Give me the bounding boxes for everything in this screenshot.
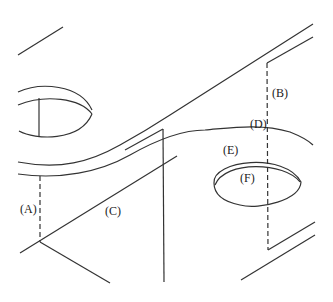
left-hole-outer-arc — [18, 86, 92, 110]
upper-s-curve — [18, 24, 313, 165]
lower-left-edge — [40, 242, 110, 283]
bottom-right-inner-edge — [268, 222, 315, 250]
left-hole-bottom-arc — [19, 114, 92, 137]
label-a: (A) — [20, 203, 37, 215]
top-left-edge — [18, 27, 63, 55]
technical-drawing: (A) (B) (C) (D) (E) (F) — [0, 0, 333, 302]
label-b: (B) — [272, 87, 288, 99]
bottom-right-outer-edge — [241, 235, 315, 280]
dashed-line-b — [267, 63, 268, 250]
top-right-inner-edge — [267, 37, 313, 63]
edge-c — [20, 156, 177, 253]
label-c: (C) — [105, 205, 121, 217]
lower-s-curve — [18, 127, 313, 176]
label-f: (F) — [240, 172, 255, 184]
vertical-edge — [163, 129, 164, 282]
left-hole-inner-arc — [18, 99, 92, 114]
right-hole-outer-ellipse — [214, 162, 301, 206]
label-e: (E) — [223, 144, 238, 156]
drawing-lines — [0, 0, 333, 302]
label-d: (D) — [250, 118, 267, 130]
